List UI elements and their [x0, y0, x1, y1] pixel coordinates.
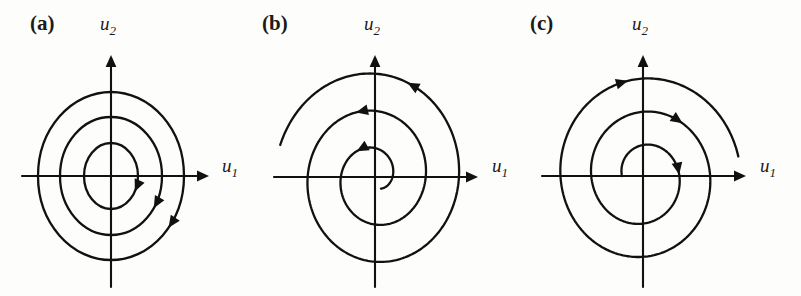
panel-a: [22, 55, 209, 287]
y-axis-arrowhead-2: [638, 55, 649, 67]
spiral-trajectory-2: [560, 78, 738, 257]
flow-arrow-1-1: [356, 104, 369, 115]
flow-arrow-1-2: [408, 83, 421, 94]
panel-b: [274, 55, 478, 287]
panel-c: [542, 55, 746, 287]
y-axis-arrowhead-0: [106, 55, 117, 67]
figure-canvas: [0, 0, 801, 296]
x-axis-arrowhead-1: [466, 172, 478, 183]
flow-arrow-0-0: [135, 178, 145, 191]
y-axis-arrowhead-1: [370, 55, 381, 67]
flow-arrow-2-0: [672, 162, 683, 175]
flow-arrow-1-0: [357, 141, 370, 152]
phase-portrait-figure: (a) u2 u1 (b) u2 u1 (c) u2 u1: [0, 0, 801, 296]
spiral-trajectory-1: [280, 74, 459, 262]
x-axis-arrowhead-0: [197, 171, 209, 182]
x-axis-arrowhead-2: [734, 171, 746, 182]
